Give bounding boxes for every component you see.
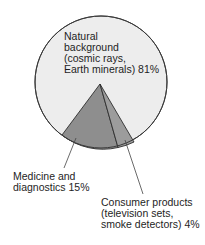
label-line: smoke detectors) 4% [101,219,200,230]
pie-chart: Natural background (cosmic rays, Earth m… [0,0,205,245]
label-natural-background: Natural background (cosmic rays, Earth m… [64,31,159,75]
label-line: diagnostics 15% [13,182,89,193]
label-medicine-diagnostics: Medicine and diagnostics 15% [13,171,89,193]
leader-line-consumer [125,140,143,194]
label-line: Earth minerals) 81% [64,64,159,75]
leader-line-medicine [64,138,76,168]
label-consumer-products: Consumer products (television sets, smok… [101,197,200,230]
